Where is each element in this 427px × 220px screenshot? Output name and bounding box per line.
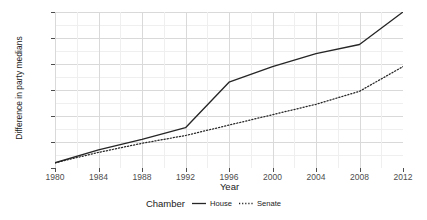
plot-panel — [55, 12, 403, 168]
series-layer — [55, 12, 403, 168]
y-tick-mark — [51, 64, 55, 65]
y-tick-mark — [51, 116, 55, 117]
chart-legend: Chamber House Senate — [0, 198, 427, 209]
x-tick-mark — [403, 168, 404, 172]
line-house — [55, 12, 403, 163]
x-tick-mark — [186, 168, 187, 172]
y-tick-mark — [51, 90, 55, 91]
x-tick-mark — [229, 168, 230, 172]
x-axis-title: Year — [55, 181, 404, 192]
chart-figure: Difference in party medians 0.50.60.70.8… — [0, 0, 427, 220]
legend-key-dotted-icon — [239, 200, 253, 207]
x-tick-mark — [316, 168, 317, 172]
legend-key-solid-icon — [192, 200, 206, 207]
y-tick-mark — [51, 12, 55, 13]
legend-title: Chamber — [146, 198, 185, 209]
y-axis-title: Difference in party medians — [14, 3, 24, 173]
y-tick-mark — [51, 142, 55, 143]
legend-item-house[interactable]: House — [192, 199, 232, 208]
legend-label-senate: Senate — [257, 199, 281, 208]
x-tick-mark — [142, 168, 143, 172]
x-tick-mark — [360, 168, 361, 172]
legend-label-house: House — [210, 199, 232, 208]
legend-item-senate[interactable]: Senate — [239, 199, 281, 208]
x-tick-mark — [55, 168, 56, 172]
y-tick-mark — [51, 38, 55, 39]
x-tick-mark — [99, 168, 100, 172]
x-tick-mark — [273, 168, 274, 172]
